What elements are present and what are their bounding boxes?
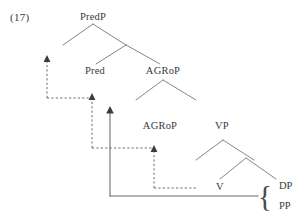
- branch-agrop-upper-right: [126, 45, 160, 64]
- branch-agrop-upper-left: [96, 45, 126, 64]
- node-pp: PP: [279, 200, 291, 211]
- node-pred: Pred: [85, 65, 105, 77]
- branch-agrop2-right: [163, 80, 196, 100]
- branch-vbar-left: [220, 158, 246, 179]
- branch-vp-left: [196, 140, 223, 160]
- branch-vbar-right: [246, 158, 276, 179]
- brace-glyph: {: [258, 181, 272, 211]
- node-v: V: [216, 181, 224, 193]
- node-agrop-lower: AGRoP: [143, 120, 177, 132]
- arrowhead-2: [89, 93, 96, 100]
- arrowhead-object-shift: [106, 106, 114, 114]
- arrowhead-3: [44, 55, 51, 62]
- node-predp: PredP: [80, 11, 106, 23]
- arrowhead-1: [151, 145, 158, 152]
- branch-predp-left: [63, 24, 93, 45]
- branch-predp-right: [93, 24, 126, 45]
- branch-agrop2-left: [136, 80, 163, 100]
- node-agrop-upper: AGRoP: [146, 65, 180, 77]
- figure-canvas: (17): [0, 0, 306, 223]
- node-dp: DP: [279, 180, 292, 191]
- node-vp: VP: [215, 120, 229, 132]
- branch-vp-right: [223, 140, 254, 160]
